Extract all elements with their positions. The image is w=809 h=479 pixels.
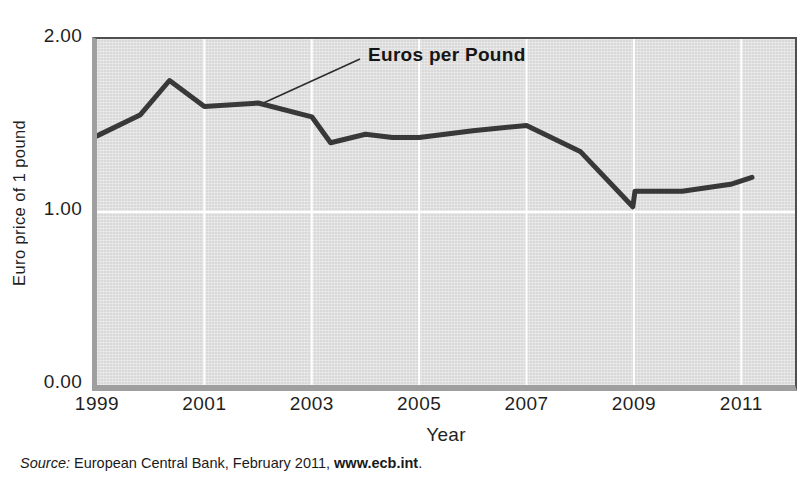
x-tick-label: 2003: [272, 393, 352, 415]
exchange-rate-figure: Euro price of 1 pound 2.001.000.00 Euros…: [0, 0, 809, 479]
y-tick-label: 0.00: [26, 371, 82, 393]
x-tick-label: 2007: [487, 393, 567, 415]
source-note: Source: European Central Bank, February …: [20, 455, 422, 471]
series-label: Euros per Pound: [368, 44, 526, 66]
x-axis-title: Year: [97, 424, 795, 446]
chart-canvas: [97, 39, 795, 385]
source-suffix: .: [418, 455, 422, 471]
x-tick-label: 1999: [57, 393, 137, 415]
exchange-rate-line: [97, 81, 752, 207]
plot-area: [92, 37, 797, 391]
source-body: European Central Bank, February 2011,: [70, 455, 334, 471]
y-tick-label: 1.00: [26, 198, 82, 220]
x-tick-label: 2005: [379, 393, 459, 415]
source-label: Source:: [20, 455, 70, 471]
y-tick-label: 2.00: [26, 25, 82, 47]
x-tick-label: 2011: [701, 393, 781, 415]
x-tick-label: 2001: [164, 393, 244, 415]
x-tick-label: 2009: [594, 393, 674, 415]
source-url: www.ecb.int: [334, 455, 418, 471]
